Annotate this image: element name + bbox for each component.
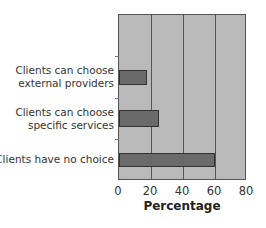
- y-tick: [115, 98, 119, 99]
- category-label-external-providers: Clients can choose external providers: [15, 64, 114, 90]
- gridline-60: [215, 15, 216, 179]
- x-tick-20: 20: [143, 184, 158, 198]
- bar-external-providers: [119, 70, 147, 85]
- label-line: Clients can choose: [15, 106, 114, 119]
- x-tick-40: 40: [175, 184, 190, 198]
- x-axis-label: Percentage: [143, 199, 220, 213]
- bar-specific-services: [119, 110, 159, 127]
- label-line: specific services: [15, 119, 114, 132]
- label-line: Clients can choose: [15, 64, 114, 77]
- category-label-no-choice: Clients have no choice: [0, 153, 114, 166]
- bar-no-choice: [119, 153, 215, 167]
- plot-area: [118, 14, 246, 180]
- label-line: Clients have no choice: [0, 153, 114, 166]
- x-tick-80: 80: [239, 184, 254, 198]
- category-label-specific-services: Clients can choose specific services: [15, 106, 114, 132]
- label-line: external providers: [15, 77, 114, 90]
- y-tick: [115, 56, 119, 57]
- x-tick-0: 0: [114, 184, 121, 198]
- y-tick: [115, 139, 119, 140]
- x-tick-60: 60: [207, 184, 222, 198]
